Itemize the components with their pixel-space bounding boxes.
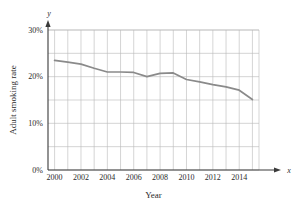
x-tick-label: 2008 [152,173,168,182]
y-tick-label: 20% [28,72,43,81]
y-axis-variable-label: y [46,9,51,18]
y-tick-label: 0% [32,166,43,175]
y-tick-label: 30% [28,26,43,35]
x-tick-label: 2014 [231,173,247,182]
y-axis-title: Adult smoking rate [8,65,18,135]
x-tick-label: 2000 [47,173,63,182]
x-tick-label: 2012 [205,173,221,182]
chart-figure: 0%10%20%30%20002002200420062008201020122… [0,0,301,215]
x-tick-label: 2004 [99,173,115,182]
x-tick-label: 2006 [126,173,142,182]
x-axis-variable-label: x [286,166,291,175]
x-tick-label: 2010 [178,173,194,182]
x-axis-title: Year [145,190,162,200]
x-tick-label: 2002 [73,173,89,182]
y-tick-label: 10% [28,119,43,128]
line-chart-canvas: 0%10%20%30%20002002200420062008201020122… [0,0,301,215]
chart-background [0,0,301,215]
